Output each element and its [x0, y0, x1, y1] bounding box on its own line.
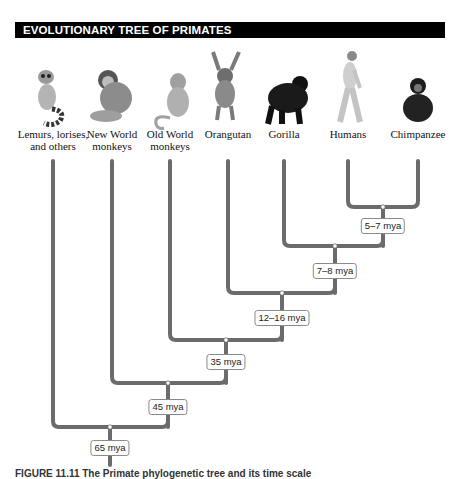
- divergence-label-65: 65 mya: [90, 440, 129, 456]
- figure-caption: FIGURE 11.11 The Primate phylogenetic tr…: [15, 469, 355, 479]
- divergence-label-35: 35 mya: [206, 354, 245, 370]
- divergence-label-45: 45 mya: [148, 399, 187, 415]
- node-dot: [224, 338, 228, 342]
- node-dot: [108, 425, 112, 429]
- branch-humans-chimp: [348, 161, 418, 207]
- node-dot: [381, 205, 385, 209]
- divergence-label-7-8: 7–8 mya: [313, 263, 357, 279]
- node-dot: [280, 291, 284, 295]
- node-dot: [333, 244, 337, 248]
- node-dot: [166, 381, 170, 385]
- divergence-label-5-7: 5–7 mya: [361, 218, 405, 234]
- divergence-label-12-16: 12–16 mya: [254, 310, 309, 326]
